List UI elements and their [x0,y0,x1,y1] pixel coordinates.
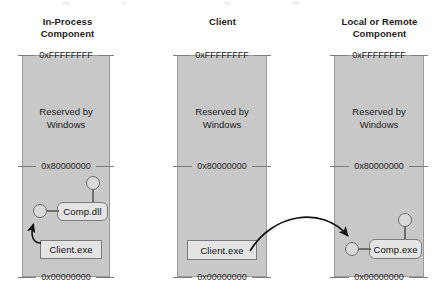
module-label: Comp.exe [373,244,417,255]
address-value: 0x80000000 [196,161,248,172]
reserved-line2: Windows [334,118,424,131]
module-label: Client.exe [200,245,243,256]
address-rule-left [173,166,192,167]
module-comp-dll: Comp.dll [57,202,108,221]
scan-artifact [292,1,299,5]
address-rule-right [96,166,114,167]
scan-artifact [122,1,126,5]
address-rule-left [18,166,36,167]
reserved-line2: Windows [22,118,110,131]
module-label: Client.exe [49,244,92,255]
address-rule-left [18,55,34,56]
scan-artifact [224,1,231,5]
comp-dll-socket-stem [46,210,59,212]
reserved-label-client: Reserved by Windows [177,105,267,131]
address-label-bottom-local-or-remote: 0x00000000 [330,271,428,283]
module-client-exe-client: Client.exe [187,240,257,260]
address-label-bottom-client: 0x00000000 [173,271,271,283]
address-value: 0x00000000 [353,272,405,283]
column-title-line1: In-Process [10,16,125,28]
address-rule-right [98,55,114,56]
comp-exe-interface-left-icon [345,242,359,256]
address-value: 0x80000000 [40,161,92,172]
address-label-mid-local-or-remote: 0x80000000 [330,160,428,172]
module-label: Comp.dll [63,206,101,217]
column-title-line2: Component [322,28,437,40]
module-client-exe-in-process: Client.exe [40,240,102,259]
reserved-label-in-process: Reserved by Windows [22,105,110,131]
scan-artifact [62,1,70,5]
address-rule-right [254,55,271,56]
column-title-line1: Client [165,16,280,28]
module-comp-exe: Comp.exe [369,239,422,259]
comp-exe-socket-stem [358,248,371,250]
reserved-line2: Windows [177,118,267,131]
address-rule-left [330,277,349,278]
address-value: 0x00000000 [40,272,92,283]
address-value: 0xFFFFFFFF [38,50,94,61]
address-label-top-in-process: 0xFFFFFFFF [18,49,114,61]
column-title-client: Client [165,16,280,28]
column-title-in-process: In-Process Component [10,16,125,40]
address-rule-right [252,166,271,167]
comp-dll-interface-top-icon [86,176,100,190]
address-rule-right [96,277,114,278]
comp-exe-interface-top-icon [398,213,412,227]
address-label-top-client: 0xFFFFFFFF [173,49,271,61]
address-rule-left [173,55,190,56]
reserved-line1: Reserved by [334,105,424,118]
column-title-line2: Component [10,28,125,40]
reserved-line1: Reserved by [22,105,110,118]
address-rule-right [409,277,428,278]
address-label-bottom-in-process: 0x00000000 [18,271,114,283]
address-rule-right [252,277,271,278]
column-title-local-or-remote: Local or Remote Component [322,16,437,40]
diagram-canvas: In-Process Component 0xFFFFFFFF Reserved… [0,0,445,293]
address-label-top-local-or-remote: 0xFFFFFFFF [330,49,428,61]
address-value: 0xFFFFFFFF [194,50,250,61]
address-rule-right [409,166,428,167]
address-label-mid-client: 0x80000000 [173,160,271,172]
address-value: 0xFFFFFFFF [351,50,407,61]
address-rule-left [330,166,349,167]
address-value: 0x00000000 [196,272,248,283]
address-rule-left [18,277,36,278]
address-label-mid-in-process: 0x80000000 [18,160,114,172]
reserved-line1: Reserved by [177,105,267,118]
comp-dll-interface-left-icon [33,204,47,218]
address-rule-left [173,277,192,278]
address-value: 0x80000000 [353,161,405,172]
address-rule-left [330,55,347,56]
column-title-line1: Local or Remote [322,16,437,28]
reserved-label-local-or-remote: Reserved by Windows [334,105,424,131]
address-rule-right [411,55,428,56]
